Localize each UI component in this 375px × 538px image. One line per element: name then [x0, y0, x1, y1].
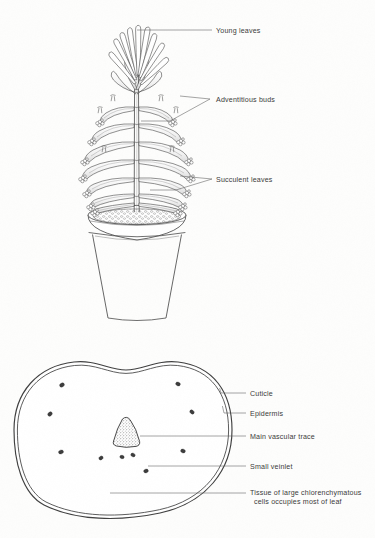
- figure-root: Young leaves Adventitious buds Succulent…: [0, 0, 375, 538]
- label-adventitious-buds: Adventitious buds: [216, 96, 275, 104]
- label-main-vascular-trace: Main vascular trace: [250, 433, 315, 441]
- label-succulent-leaves: Succulent leaves: [216, 176, 273, 184]
- label-ground-tissue-line1: Tissue of large chlorenchymatous: [250, 489, 362, 497]
- label-ground-tissue-line2: cells occupies most of leaf: [254, 498, 342, 506]
- label-cuticle: Cuticle: [250, 390, 273, 398]
- label-epidermis: Epidermis: [250, 410, 283, 418]
- label-young-leaves: Young leaves: [216, 27, 261, 35]
- botanical-figure: Young leaves Adventitious buds Succulent…: [0, 0, 375, 538]
- label-small-veinlet: Small veinlet: [250, 463, 293, 471]
